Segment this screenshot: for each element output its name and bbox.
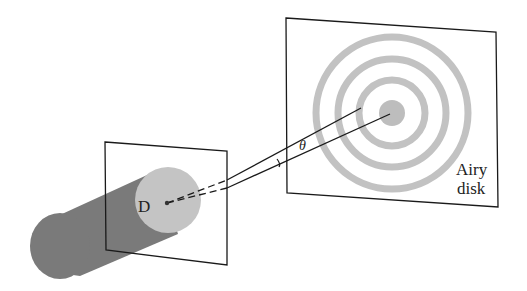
airy-pattern xyxy=(316,37,468,189)
airy-label-line2: disk xyxy=(457,179,486,198)
angle-label: θ xyxy=(299,138,306,153)
aperture-center-dot xyxy=(165,201,169,205)
aperture-label: D xyxy=(138,197,150,216)
airy-center-spot xyxy=(379,100,405,126)
airy-label-line1: Airy xyxy=(456,160,488,179)
airy-disk-diagram: D θ Airy disk xyxy=(0,0,527,291)
